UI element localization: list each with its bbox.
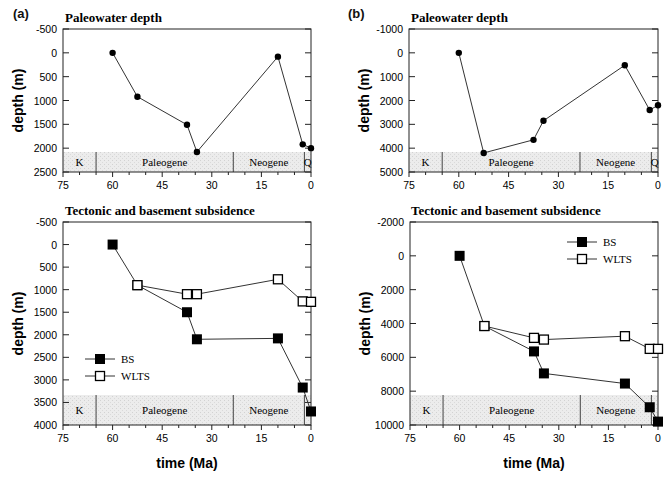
y-tick-label: 10000	[375, 419, 404, 431]
era-label: Paleogene	[488, 156, 533, 168]
y-axis-label: depth (m)	[357, 292, 373, 356]
data-point	[622, 62, 628, 68]
series-line	[137, 279, 311, 302]
y-tick-label: -500	[36, 216, 57, 228]
x-tick-label: 0	[655, 432, 661, 444]
data-point-wlts	[620, 332, 629, 341]
data-point	[530, 137, 536, 143]
x-tick-label: 0	[308, 179, 314, 191]
y-tick-label: 3000	[380, 118, 404, 130]
data-point-wlts	[192, 290, 201, 299]
series-line	[459, 53, 658, 153]
era-label: Paleogene	[142, 156, 187, 168]
x-tick-label: 60	[107, 179, 119, 191]
data-point	[540, 118, 546, 124]
y-tick-label: 2000	[34, 329, 58, 341]
chart-title: Tectonic and basement subsidence	[65, 203, 255, 218]
legend-bs-label: BS	[603, 236, 616, 248]
x-tick-label: 60	[107, 432, 119, 444]
figure-canvas: Paleowater depthKPaleogeneNeogeneQ-50005…	[0, 0, 671, 483]
x-tick-label: 15	[602, 179, 614, 191]
era-label: Paleogene	[489, 404, 534, 416]
data-point-bs	[108, 240, 118, 250]
data-point-bs	[539, 368, 549, 378]
x-tick-label: 75	[57, 432, 69, 444]
y-tick-label: -500	[36, 23, 57, 35]
x-tick-label: 45	[503, 179, 515, 191]
data-point-wlts	[654, 344, 663, 353]
y-tick-label: 2000	[34, 142, 58, 154]
legend-bs-marker	[577, 237, 587, 247]
y-tick-label: 2500	[34, 351, 58, 363]
era-label: Neogene	[249, 404, 288, 416]
data-point	[481, 150, 487, 156]
y-tick-label: -2000	[377, 216, 404, 228]
y-tick-label: 3500	[34, 396, 58, 408]
y-tick-label: 5000	[380, 166, 404, 178]
chart-a-paleowater: Paleowater depthKPaleogeneNeogeneQ-50005…	[10, 10, 314, 191]
data-point	[647, 107, 653, 113]
legend-wlts-label: WLTS	[603, 253, 632, 265]
legend-wlts-label: WLTS	[121, 370, 150, 382]
x-tick-label: 30	[553, 179, 565, 191]
x-tick-label: 45	[503, 432, 515, 444]
y-tick-label: 6000	[381, 351, 405, 363]
data-point	[275, 53, 281, 59]
y-tick-label: 8000	[381, 385, 405, 397]
y-axis-label: depth (m)	[356, 69, 372, 133]
y-tick-label: 1000	[380, 71, 404, 83]
chart-title: Tectonic and basement subsidence	[411, 203, 601, 218]
legend: BSWLTS	[567, 236, 632, 265]
data-point-bs	[645, 402, 655, 412]
y-tick-label: 1000	[34, 284, 58, 296]
x-tick-label: 75	[404, 432, 416, 444]
legend-bs-marker	[95, 354, 105, 364]
data-point	[300, 141, 306, 147]
data-point-bs	[455, 251, 465, 261]
legend: BSWLTS	[85, 353, 150, 382]
data-point-bs	[192, 334, 202, 344]
x-tick-label: 60	[453, 179, 465, 191]
data-point	[194, 149, 200, 155]
x-tick-label: 0	[308, 432, 314, 444]
chart-b-paleowater: Paleowater depthKPaleogeneNeogeneQ-10000…	[356, 10, 661, 191]
era-label: K	[423, 404, 431, 416]
series-line	[113, 53, 311, 152]
data-point-wlts	[183, 290, 192, 299]
data-point-wlts	[273, 275, 282, 284]
data-point	[184, 122, 190, 128]
era-label: K	[76, 404, 84, 416]
era-label: Neogene	[596, 156, 635, 168]
data-point-bs	[529, 346, 539, 356]
data-point-bs	[306, 406, 316, 416]
y-tick-label: 2000	[381, 284, 405, 296]
chart-title: Paleowater depth	[65, 10, 163, 25]
x-tick-label: 15	[603, 432, 615, 444]
era-label: Neogene	[596, 404, 635, 416]
x-tick-label: 30	[206, 179, 218, 191]
x-tick-label: 15	[256, 432, 268, 444]
y-tick-label: 3000	[34, 374, 58, 386]
x-tick-label: 45	[156, 432, 168, 444]
x-axis-label: time (Ma)	[503, 455, 564, 471]
data-point-wlts	[480, 322, 489, 331]
y-tick-label: 1000	[34, 95, 58, 107]
chart-title: Paleowater depth	[411, 10, 509, 25]
data-point-bs	[182, 307, 192, 317]
chart-b-subsidence: Tectonic and basement subsidenceKPaleoge…	[357, 203, 663, 471]
x-tick-label: 60	[454, 432, 466, 444]
data-point	[456, 50, 462, 56]
plot-frame	[409, 29, 658, 172]
y-tick-label: 0	[51, 239, 57, 251]
data-point-wlts	[307, 297, 316, 306]
series-line	[113, 245, 311, 412]
y-tick-label: 4000	[381, 318, 405, 330]
plot-frame	[63, 222, 311, 425]
y-tick-label: -1000	[376, 23, 403, 35]
x-tick-label: 15	[256, 179, 268, 191]
legend-bs-label: BS	[121, 353, 134, 365]
y-tick-label: 500	[39, 71, 57, 83]
y-tick-label: 4000	[34, 419, 58, 431]
x-tick-label: 0	[655, 179, 661, 191]
y-tick-label: 4000	[380, 142, 404, 154]
